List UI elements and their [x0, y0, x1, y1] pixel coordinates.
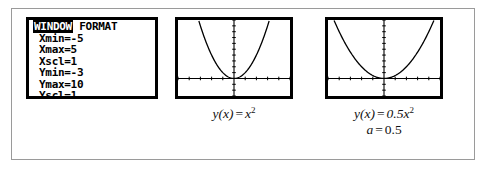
graph-panel-y-equals-half-x-squared: [325, 17, 443, 99]
caption-line-parameter-a: a=0.5: [325, 122, 443, 138]
caption-2-arg: (x): [360, 106, 375, 121]
caption-2b-equals: =: [373, 122, 385, 137]
lcd-setting-yscl[interactable]: Yscl=1: [33, 90, 155, 99]
graph-panel-y-equals-x-squared: [175, 17, 293, 99]
parabola-plot-half-x-squared: [328, 20, 440, 96]
caption-1-exponent: 2: [251, 105, 256, 115]
lcd-header-format[interactable]: FORMAT: [79, 20, 117, 33]
caption-2-rhs: 0.5x: [387, 106, 410, 121]
caption-2b-rhs: 0.5: [385, 122, 402, 137]
lcd-content: WINDOW FORMAT Xmin=-5 Xmax=5 Xscl=1 Ymin…: [29, 20, 155, 96]
caption-graph-2: y(x)=0.5x2 a=0.5: [325, 106, 443, 138]
caption-2-exponent: 2: [409, 105, 414, 115]
caption-1-arg: (x): [218, 106, 233, 121]
figure-root: WINDOW FORMAT Xmin=-5 Xmax=5 Xscl=1 Ymin…: [0, 0, 494, 174]
caption-graph-1: y(x)=x2: [175, 106, 293, 122]
parabola-plot-x-squared: [178, 20, 290, 96]
lcd-setting-ymin[interactable]: Ymin=-3: [33, 67, 155, 78]
caption-line-equation-2: y(x)=0.5x2: [325, 106, 443, 122]
caption-2-equals: =: [375, 106, 387, 121]
caption-line-equation-1: y(x)=x2: [175, 106, 293, 122]
caption-1-equals: =: [233, 106, 245, 121]
calculator-lcd-screen: WINDOW FORMAT Xmin=-5 Xmax=5 Xscl=1 Ymin…: [26, 17, 158, 99]
